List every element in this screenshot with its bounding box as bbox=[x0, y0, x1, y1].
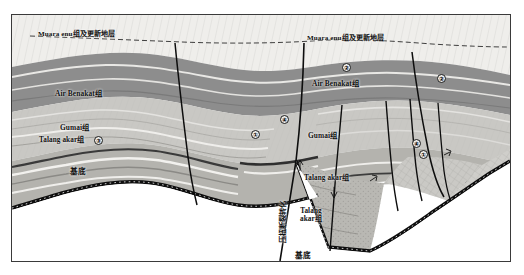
marker-2-right-outer: ② bbox=[437, 74, 446, 83]
cross-section-drawing bbox=[12, 15, 510, 261]
marker-4-right: ④ bbox=[412, 139, 421, 148]
cross-section-frame: Muara enu组及更新地层 Muara enu组及更新地层 Air Bena… bbox=[11, 14, 511, 262]
figure-canvas: Muara enu组及更新地层 Muara enu组及更新地层 Air Bena… bbox=[0, 0, 524, 275]
marker-4-center: ④ bbox=[280, 115, 289, 124]
marker-1-center: ① bbox=[251, 130, 260, 139]
marker-2-right-inner: ② bbox=[342, 63, 351, 72]
marker-1-right: ① bbox=[419, 150, 428, 159]
marker-3-left: ③ bbox=[94, 136, 103, 145]
